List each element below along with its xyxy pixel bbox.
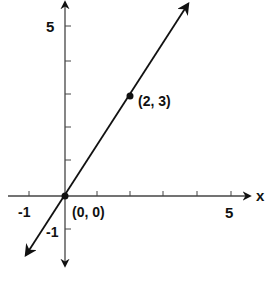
point-origin <box>62 193 69 200</box>
x-tick-label-5: 5 <box>225 204 233 221</box>
line-graph: 5 -1 -1 5 x (0, 0) (2, 3) <box>0 0 278 285</box>
y-tick-label-5: 5 <box>46 18 54 35</box>
point-2-3 <box>127 93 134 100</box>
x-axis-label: x <box>256 187 265 204</box>
x-ticks <box>29 191 231 196</box>
origin-label: (0, 0) <box>72 204 105 220</box>
data-line <box>26 4 188 255</box>
x-tick-label-neg1: -1 <box>18 204 31 220</box>
point-2-3-label: (2, 3) <box>138 93 171 109</box>
y-tick-label-neg1: -1 <box>46 224 59 240</box>
